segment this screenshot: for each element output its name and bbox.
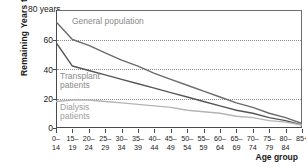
label-transplant-line2: patients [60,81,90,91]
x-tick-9 [204,129,205,133]
y-tick-label-0: 0 [23,123,53,133]
x-tick-label-top: 85+ [290,134,306,143]
line-transplant-patients [56,42,302,125]
x-tick-1 [72,129,73,133]
x-tick-label-15: 85+ [290,134,306,143]
x-tick-10 [220,129,221,133]
label-dialysis-line2: patients [60,112,90,122]
x-tick-label-bottom: 84 [274,143,298,152]
x-tick-5 [138,129,139,133]
x-tick-3 [105,129,106,133]
x-axis-title: Age group [256,152,299,162]
series-lines [56,10,302,128]
x-tick-6 [154,129,155,133]
y-tick-label-40: 40 [23,65,53,75]
x-tick-15 [302,129,303,133]
x-tick-14 [286,129,287,133]
x-tick-11 [236,129,237,133]
y-tick-label-20: 20 [23,94,53,104]
x-tick-4 [122,129,123,133]
x-tick-0 [56,129,57,133]
chart-container: Remaining Years to Live 80 years 60 40 2… [0,0,306,167]
label-general-population: General population [72,17,144,27]
x-tick-13 [269,129,270,133]
x-tick-8 [187,129,188,133]
x-tick-12 [253,129,254,133]
x-tick-2 [89,129,90,133]
y-tick-label-60: 60 [23,35,53,45]
x-tick-7 [171,129,172,133]
